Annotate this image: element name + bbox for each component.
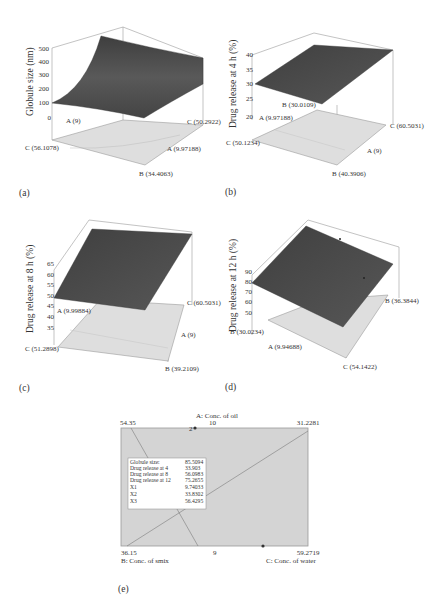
svg-text:0: 0 [48, 114, 52, 122]
svg-text:65: 65 [47, 260, 55, 268]
panel-b: 40 35 30 25 20 Drug release at 4 h (%) B… [225, 33, 425, 198]
figure-canvas: 500 400 300 200 100 0 Globule size (nm) … [0, 0, 443, 609]
panel-e-marker-bottom [261, 544, 264, 547]
svg-text:80: 80 [245, 278, 253, 286]
panel-e-bottom-left-axis: B: Conc. of smix [121, 557, 169, 565]
panel-b-label-right-mid: A (9) [367, 147, 382, 155]
panel-a-floor [52, 120, 203, 165]
svg-text:50: 50 [47, 292, 55, 300]
panel-b-surface [255, 45, 393, 104]
svg-text:40: 40 [246, 51, 254, 59]
panel-e-corner-top-right: 31.2281 [297, 419, 320, 427]
panel-c-label-inner-a: A (9.99884) [57, 307, 92, 315]
panel-e-bottom-right-axis: C: Conc. of water [266, 557, 316, 565]
legend-label: Drug release at 12 [130, 477, 171, 483]
panel-d-z-ticks: 90 80 70 60 50 [245, 268, 253, 317]
panel-d-label-right-top: B (36.3844) [385, 297, 420, 305]
panel-d-caption: (d) [225, 382, 236, 393]
svg-text:55: 55 [47, 281, 55, 289]
legend-label: X1 [130, 484, 137, 490]
svg-text:45: 45 [47, 302, 55, 310]
panel-c-label-front-left: C (51.2898) [25, 345, 60, 353]
panel-d: 90 80 70 60 50 Drug release at 12 h (%) … [225, 220, 420, 393]
panel-a-label-right-mid: A (9.97188) [167, 145, 202, 153]
panel-a-label-front-left: C (56.1078) [25, 144, 60, 152]
panel-b-z-label: Drug release at 4 h (%) [228, 40, 239, 128]
panel-e-marker-top [193, 426, 196, 429]
svg-text:400: 400 [39, 58, 50, 66]
svg-text:35: 35 [246, 66, 254, 74]
panel-e-bottom-tick: 9 [213, 549, 217, 557]
panel-d-z-label: Drug release at 12 h (%) [228, 239, 239, 332]
svg-text:50: 50 [245, 309, 253, 317]
svg-text:100: 100 [39, 99, 50, 107]
panel-e-marker-count: 2 [189, 425, 193, 433]
panel-e-corner-top-left: 54.35 [120, 419, 136, 427]
legend-value: 56.4295 [185, 498, 203, 504]
panel-a-label-right-top: C (50.2922) [187, 118, 222, 126]
svg-text:90: 90 [245, 268, 253, 276]
panel-b-label-front-left: C (50.1234) [226, 139, 261, 147]
panel-c-label-bottom: B (39.2109) [165, 365, 200, 373]
panel-b-label-right-top: C (60.5031) [390, 122, 425, 130]
panel-b-z-ticks: 40 35 30 25 20 [246, 51, 254, 121]
panel-a-z-label: Globule size (nm) [25, 47, 36, 116]
svg-text:35: 35 [47, 324, 55, 332]
svg-text:60: 60 [245, 298, 253, 306]
panel-e-caption: (e) [118, 584, 129, 595]
panel-d-design-point [339, 238, 341, 240]
panel-c-label-right-top: C (60.5031) [187, 299, 222, 307]
legend-value: 33.8302 [185, 491, 203, 497]
panel-a-z-ticks: 500 400 300 200 100 0 [39, 45, 52, 122]
svg-text:60: 60 [47, 271, 55, 279]
svg-text:25: 25 [246, 95, 254, 103]
panel-e-corner-bottom-left: 36.15 [121, 549, 137, 557]
panel-b-label-bottom: B (40.3906) [332, 170, 367, 178]
panel-a-caption: (a) [19, 188, 30, 199]
legend-value: 9.74033 [185, 484, 203, 490]
panel-c-label-right-mid: A (9) [181, 331, 196, 339]
panel-e-corner-bottom-right: 59.2719 [297, 549, 320, 557]
panel-b-label-inner-a: A (9.97188) [259, 114, 294, 122]
panel-e-top-axis-label: A: Conc. of oil [196, 412, 238, 420]
panel-b-caption: (b) [225, 187, 236, 198]
panel-a: 500 400 300 200 100 0 Globule size (nm) … [19, 27, 222, 199]
panel-e: 2 Globule size: 85.5094 Drug release at … [118, 412, 320, 595]
svg-text:200: 200 [39, 85, 50, 93]
panel-e-top-tick: 10 [209, 419, 217, 427]
svg-text:20: 20 [246, 113, 254, 121]
legend-label: X3 [130, 498, 137, 504]
panel-d-label-front-left: B (30.0234) [230, 328, 265, 336]
panel-c-surface [54, 229, 192, 310]
svg-text:300: 300 [39, 71, 50, 79]
panel-e-legend: Globule size: 85.5094 Drug release at 4 … [128, 458, 206, 509]
legend-label: X2 [130, 491, 137, 497]
panel-d-design-point [363, 277, 365, 279]
panel-c-z-label: Drug release at 8 h (%) [25, 245, 36, 333]
svg-text:70: 70 [245, 288, 253, 296]
panel-a-label-back-left: A (9) [66, 117, 81, 125]
panel-c-z-ticks: 65 60 55 50 45 40 35 [47, 260, 55, 332]
panel-a-surface [52, 36, 203, 118]
panel-b-label-inner-b: B (30.0109) [282, 101, 317, 109]
panel-a-label-bottom: B (34.4063) [139, 170, 174, 178]
legend-value: 75.2655 [185, 477, 203, 483]
svg-text:40: 40 [47, 313, 55, 321]
panel-c: 65 60 55 50 45 40 35 Drug release at 8 h… [19, 220, 222, 394]
panel-d-label-bottom: C (54.1422) [343, 363, 378, 371]
panel-c-caption: (c) [19, 383, 30, 394]
svg-text:500: 500 [39, 45, 50, 53]
panel-d-label-front-mid: A (9.94688) [268, 343, 303, 351]
svg-text:30: 30 [246, 80, 254, 88]
